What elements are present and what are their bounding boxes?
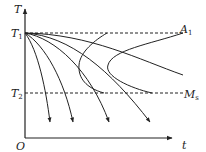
origin-label: O bbox=[16, 141, 25, 152]
cooling-curve-1 bbox=[25, 33, 50, 122]
ms-label: Ms bbox=[184, 89, 199, 102]
t2-label: T2 bbox=[11, 88, 23, 101]
transformation-start-curve bbox=[79, 33, 107, 93]
t1-label: T1 bbox=[11, 28, 23, 41]
x-axis-label: t bbox=[182, 140, 186, 151]
cct-diagram: T T1 T2 A1 Ms O t bbox=[0, 0, 206, 152]
t2-label-sub: 2 bbox=[18, 93, 22, 101]
ms-label-main: M bbox=[184, 88, 195, 101]
ms-label-sub: s bbox=[195, 94, 199, 102]
diagram-canvas bbox=[0, 0, 206, 152]
a1-label-main: A bbox=[180, 23, 188, 36]
y-axis-label: T bbox=[14, 4, 21, 15]
a1-label-sub: 1 bbox=[188, 29, 192, 37]
cooling-curve-5 bbox=[25, 33, 183, 75]
cooling-curve-4 bbox=[25, 33, 150, 122]
a1-label: A1 bbox=[180, 24, 192, 37]
t1-label-sub: 1 bbox=[18, 33, 22, 41]
transformation-end-curve bbox=[108, 33, 183, 93]
cooling-curve-3 bbox=[25, 33, 109, 122]
